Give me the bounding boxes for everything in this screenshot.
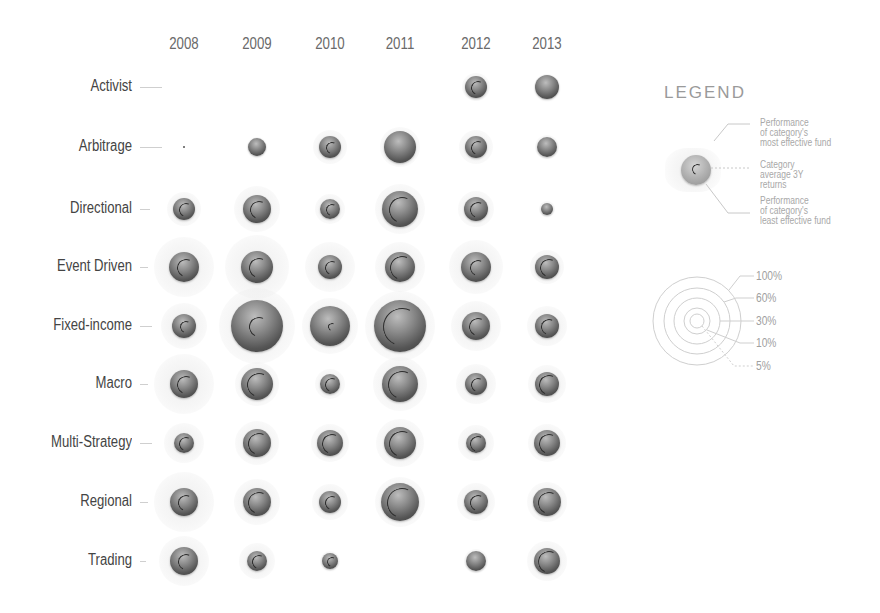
scale-label-100: 100% [756, 269, 782, 283]
y-axis-label-directional: Directional [24, 199, 132, 217]
row-tick [140, 561, 146, 562]
y-axis-label-activist: Activist [24, 77, 132, 95]
row-tick [140, 209, 150, 210]
x-axis-label-2013: 2013 [524, 34, 571, 54]
bubble-arbitrage-2009[interactable] [248, 138, 266, 156]
row-tick [140, 502, 148, 503]
bubble-arbitrage-2011[interactable] [384, 131, 416, 163]
x-axis-label-2012: 2012 [453, 34, 500, 54]
scale-label-10: 10% [756, 336, 776, 350]
y-axis-label-multi-strategy: Multi-Strategy [24, 433, 132, 451]
legend-middle-label: Categoryaverage 3Yreturns [760, 160, 803, 190]
y-axis-label-trading: Trading [24, 551, 132, 569]
y-axis-label-arbitrage: Arbitrage [24, 137, 132, 155]
row-tick [140, 326, 152, 327]
y-axis-label-fixed-income: Fixed-income [24, 316, 132, 334]
scale-label-5: 5% [756, 359, 771, 373]
legend-bottom-label: Performanceof category'sleast effective … [760, 196, 831, 226]
x-axis-label-2011: 2011 [377, 34, 424, 54]
bubble-arbitrage-2008[interactable] [183, 146, 185, 148]
x-axis-label-2010: 2010 [307, 34, 354, 54]
bubble-arbitrage-2013[interactable] [537, 137, 557, 157]
y-axis-label-regional: Regional [24, 492, 132, 510]
y-axis-label-event-driven: Event Driven [24, 257, 132, 275]
bubble-trading-2012[interactable] [466, 551, 486, 571]
legend-leaders [0, 0, 880, 613]
legend-top-label: Performanceof category'smost effective f… [760, 118, 831, 148]
row-tick [140, 384, 148, 385]
x-axis-label-2008: 2008 [161, 34, 208, 54]
bubble-directional-2013[interactable] [541, 203, 553, 215]
x-axis-label-2009: 2009 [234, 34, 281, 54]
row-tick [140, 267, 148, 268]
scale-label-30: 30% [756, 314, 776, 328]
y-axis-label-macro: Macro [24, 374, 132, 392]
legend-title: LEGEND [664, 83, 746, 103]
row-tick [140, 443, 152, 444]
row-tick [140, 147, 162, 148]
scale-label-60: 60% [756, 291, 776, 305]
bubble-activist-2013[interactable] [535, 75, 559, 99]
row-tick [140, 87, 162, 88]
